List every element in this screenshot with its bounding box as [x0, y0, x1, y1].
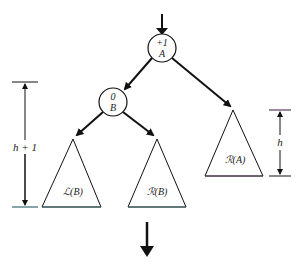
subtree-right-of-b: ℛ(B) [128, 139, 186, 207]
node-a-name: A [158, 48, 166, 59]
left-height-label: h + 1 [13, 141, 37, 153]
node-a-balance: +1 [156, 37, 168, 48]
node-b-balance: 0 [111, 91, 116, 102]
right-height-dimension: h [269, 110, 291, 176]
edge-a-to-ra [172, 58, 230, 106]
subtree-right-of-b-label: ℛ(B) [147, 186, 168, 198]
right-height-label: h [277, 136, 283, 148]
subtree-left-of-b: ℒ(B) [42, 139, 101, 207]
edge-b-to-rb [123, 112, 153, 135]
edge-a-to-b [125, 58, 152, 89]
avl-tree-diagram: +1 A 0 B ℒ(B) ℛ(B) ℛ(A) h + 1 [0, 0, 302, 268]
node-a: +1 A [148, 34, 176, 62]
subtree-left-of-b-label: ℒ(B) [63, 186, 83, 198]
subtree-right-of-a: ℛ(A) [205, 110, 263, 176]
incoming-arrow-icon [156, 14, 168, 35]
subtree-right-of-a-label: ℛ(A) [225, 154, 246, 166]
left-height-dimension: h + 1 [12, 82, 38, 207]
edge-b-to-lb [77, 112, 103, 135]
node-b: 0 B [99, 88, 127, 116]
node-b-name: B [110, 102, 116, 113]
outgoing-arrow-icon [140, 222, 154, 257]
